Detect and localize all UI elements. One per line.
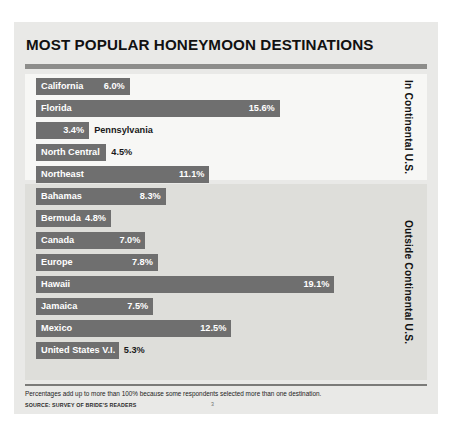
bar-category-label: Canada xyxy=(41,232,74,249)
bar-row: Mexico12.5% xyxy=(36,320,386,337)
bar-row: Northeast11.1% xyxy=(36,166,386,183)
bar-row: Europe7.8% xyxy=(36,254,386,271)
bar xyxy=(36,100,280,117)
bars-bottom: Bahamas8.3%Bermuda4.8%Canada7.0%Europe7.… xyxy=(36,184,386,380)
group-in-continental-us: California6.0%Florida15.6%Pennsylvania3.… xyxy=(25,74,427,180)
group-outside-continental-us: Bahamas8.3%Bermuda4.8%Canada7.0%Europe7.… xyxy=(25,184,427,380)
group-label-bottom-text: Outside Continental U.S. xyxy=(403,220,414,344)
bar-value-label: 19.1% xyxy=(303,276,329,293)
bar-value-label: 7.5% xyxy=(127,298,148,315)
bar-category-label: Jamaica xyxy=(41,298,77,315)
bar-category-label: Bahamas xyxy=(41,188,82,205)
bar-category-label: North Central xyxy=(41,144,100,161)
bar-value-label: 4.5% xyxy=(111,144,132,161)
group-label-in-continental-us: In Continental U.S. xyxy=(395,74,421,180)
bar-category-label: Europe xyxy=(41,254,73,271)
page-number: 3 xyxy=(211,401,214,407)
bar-category-label: Pennsylvania xyxy=(94,122,153,139)
bar-category-label: California xyxy=(41,78,83,95)
bar-row: Jamaica7.5% xyxy=(36,298,386,315)
bar-row: Florida15.6% xyxy=(36,100,386,117)
bar-row: Bermuda4.8% xyxy=(36,210,386,227)
bar-value-label: 6.0% xyxy=(104,78,125,95)
bar-row: Bahamas8.3% xyxy=(36,188,386,205)
bar-row: Pennsylvania3.4% xyxy=(36,122,386,139)
footer-divider xyxy=(25,384,427,386)
bar-value-label: 12.5% xyxy=(200,320,226,337)
bar-value-label: 7.8% xyxy=(132,254,153,271)
bar-value-label: 11.1% xyxy=(179,166,205,183)
bar-value-label: 5.3% xyxy=(124,342,145,359)
bar-category-label: Mexico xyxy=(41,320,72,337)
bars-top: California6.0%Florida15.6%Pennsylvania3.… xyxy=(36,74,386,180)
bar-row: United States V.I.5.3% xyxy=(36,342,386,359)
bar-row: Canada7.0% xyxy=(36,232,386,249)
page-title: MOST POPULAR HONEYMOON DESTINATIONS xyxy=(26,36,373,53)
bar-row: Hawaii19.1% xyxy=(36,276,386,293)
bar-category-label: Florida xyxy=(41,100,72,117)
footnote-text: Percentages add up to more than 100% bec… xyxy=(25,390,321,397)
bar-category-label: Hawaii xyxy=(41,276,70,293)
bar xyxy=(36,276,334,293)
title-divider xyxy=(25,64,427,69)
bar-category-label: United States V.I. xyxy=(41,342,115,359)
chart-page: MOST POPULAR HONEYMOON DESTINATIONS Cali… xyxy=(0,0,453,432)
source-text: SOURCE: SURVEY OF BRIDE'S READERS xyxy=(25,402,136,408)
bar-row: North Central4.5% xyxy=(36,144,386,161)
bar-value-label: 7.0% xyxy=(119,232,140,249)
bar-value-label: 3.4% xyxy=(63,122,84,139)
group-label-outside-continental-us: Outside Continental U.S. xyxy=(395,184,421,380)
chart-card: MOST POPULAR HONEYMOON DESTINATIONS Cali… xyxy=(14,22,438,414)
bar-row: California6.0% xyxy=(36,78,386,95)
group-label-top-text: In Continental U.S. xyxy=(403,80,414,174)
bar-category-label: Northeast xyxy=(41,166,84,183)
bar-value-label: 15.6% xyxy=(249,100,275,117)
bar-value-label: 4.8% xyxy=(85,210,106,227)
bar-category-label: Bermuda xyxy=(41,210,81,227)
bar-value-label: 8.3% xyxy=(140,188,161,205)
